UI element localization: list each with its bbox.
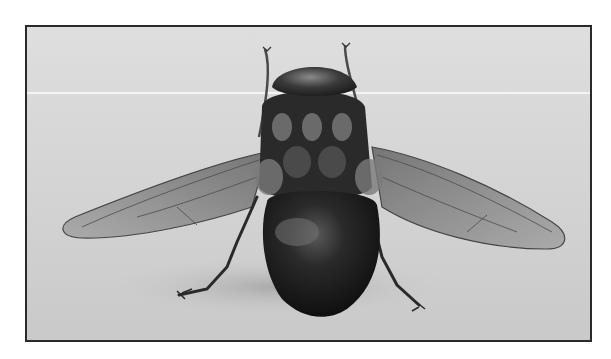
fly-photo	[27, 27, 590, 340]
left-wing-base	[255, 159, 283, 195]
thorax-mark	[332, 113, 352, 141]
thorax-mark	[283, 146, 311, 178]
thorax-mark	[272, 113, 292, 141]
thorax-mark	[318, 146, 346, 178]
photo-frame	[25, 25, 592, 342]
thorax-mark	[302, 113, 322, 141]
right-wing-base	[355, 159, 383, 195]
abdomen-highlight	[275, 218, 319, 246]
